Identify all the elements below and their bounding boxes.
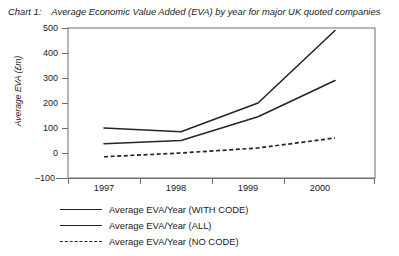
legend-swatch-dashed-icon [60,237,102,247]
series-line-with-code [104,31,335,132]
legend-label-with-code: Average EVA/Year (WITH CODE) [109,205,248,214]
legend-item-with-code: Average EVA/Year (WITH CODE) [60,203,248,217]
legend-label-all: Average EVA/Year (ALL) [109,221,212,230]
legend-swatch-solid-icon [60,205,102,215]
series-line-all [104,81,335,144]
chart-figure: Chart 1: Average Economic Value Added (E… [0,0,399,256]
legend-label-no-code: Average EVA/Year (NO CODE) [109,237,239,246]
legend-item-no-code: Average EVA/Year (NO CODE) [60,235,248,249]
series-line-no-code [104,138,335,157]
y-axis-ticks [62,29,68,179]
legend-item-all: Average EVA/Year (ALL) [60,219,248,233]
chart-legend: Average EVA/Year (WITH CODE) Average EVA… [60,203,248,249]
legend-swatch-solid-icon [60,221,102,231]
